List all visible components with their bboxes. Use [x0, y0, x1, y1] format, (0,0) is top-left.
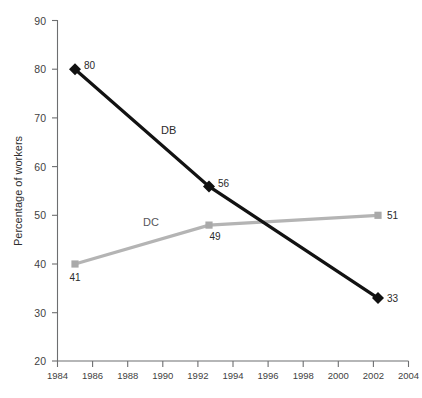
x-tick-label-1986: 1986 — [82, 370, 103, 381]
y-tick-label-70: 70 — [34, 112, 46, 124]
y-tick-label-80: 80 — [34, 63, 46, 75]
x-tick-label-1992: 1992 — [187, 370, 208, 381]
y-tick-label-30: 30 — [34, 307, 46, 319]
y-tick-label-90: 90 — [34, 15, 46, 27]
point-label-db-2003: 33 — [387, 293, 399, 304]
x-tick-label-1990: 1990 — [152, 370, 173, 381]
x-tick-label-1998: 1998 — [293, 370, 314, 381]
y-tick-label-20: 20 — [34, 355, 46, 367]
point-label-db-1985: 80 — [84, 60, 96, 71]
chart-container: 90 80 70 60 50 40 30 20 Percentage of wo… — [0, 0, 422, 398]
point-label-dc-1985: 41 — [69, 272, 81, 283]
x-tick-label-1996: 1996 — [258, 370, 279, 381]
y-axis-title: Percentage of workers — [12, 135, 24, 246]
x-tick-label-2004: 2004 — [398, 370, 419, 381]
x-tick-label-1994: 1994 — [222, 370, 243, 381]
y-tick-label-50: 50 — [34, 209, 46, 221]
series-label-db: DB — [161, 124, 176, 136]
x-tick-label-1984: 1984 — [47, 370, 68, 381]
line-chart: 90 80 70 60 50 40 30 20 Percentage of wo… — [0, 0, 422, 398]
series-label-dc: DC — [143, 216, 159, 228]
x-tick-label-1988: 1988 — [117, 370, 138, 381]
point-label-dc-2003: 51 — [387, 210, 399, 221]
x-tick-label-2002: 2002 — [363, 370, 384, 381]
series-marker-dc-1993 — [205, 222, 212, 229]
point-label-db-1993: 56 — [218, 178, 230, 189]
y-tick-label-60: 60 — [34, 161, 46, 173]
series-line-dc — [75, 215, 378, 264]
series-marker-dc-1985 — [71, 260, 78, 267]
point-label-dc-1993: 49 — [209, 231, 221, 242]
x-tick-label-2000: 2000 — [328, 370, 349, 381]
series-marker-dc-2003 — [374, 212, 381, 219]
y-tick-label-40: 40 — [34, 258, 46, 270]
